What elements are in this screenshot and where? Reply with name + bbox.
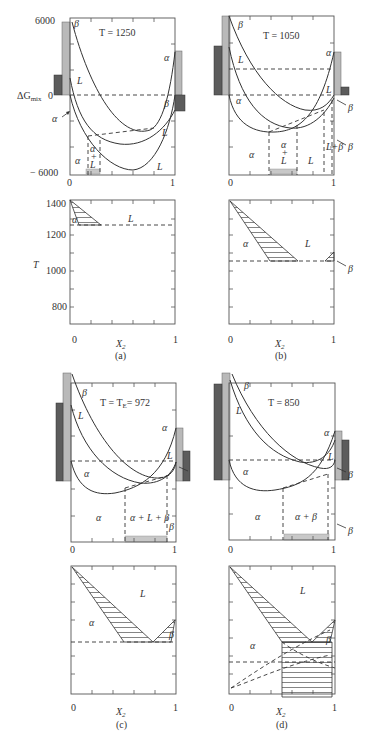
beta-label-right: β — [347, 469, 353, 480]
two-phase-shade — [284, 534, 329, 540]
alpha-region-label: α — [249, 149, 255, 160]
three-phase-label: α + L + β — [130, 512, 169, 523]
y-axis-label: T — [33, 259, 40, 270]
temperature-label: T = 850 — [268, 397, 300, 408]
phase-diagram-figure: T = 1250 β L α β L L α α α + L 6000 0 − … — [0, 0, 375, 747]
y-tick-800: 800 — [52, 301, 67, 312]
panel-c-free-energy: T = TE= 972 β L α α L α α + L + β β 0 1 — [56, 373, 190, 555]
alpha-bar-right — [335, 431, 342, 480]
temperature-label: T = 1250 — [99, 27, 136, 38]
liquid-curve — [229, 47, 334, 128]
beta-label: β — [237, 19, 243, 30]
alpha-l-two-phase-region — [230, 567, 312, 642]
x-axis-label: X2 — [115, 706, 126, 719]
beta-label-right-1: β — [347, 102, 353, 113]
beta-region-label: β — [168, 521, 174, 532]
alpha-label: α — [236, 95, 242, 106]
x-tick-0: 0 — [229, 702, 234, 713]
x-tick-0: 0 — [70, 544, 75, 555]
l-label: L — [235, 405, 242, 416]
x-tick-0: 0 — [228, 177, 233, 188]
alpha-curve — [229, 431, 335, 491]
alpha-label: α — [89, 617, 95, 628]
alpha-beta-label: α + β — [295, 511, 317, 522]
panel-d-free-energy: T = 850 β L α α L β α α + β β 0 1 — [214, 373, 353, 555]
y-tick-1400: 1400 — [46, 198, 66, 209]
arrowhead-icon — [66, 111, 70, 115]
caption: (c) — [116, 719, 127, 731]
x-axis-label: X2 — [275, 706, 286, 719]
alpha-bar-right — [334, 52, 341, 95]
panel-a-free-energy: T = 1250 β L α β L L α α α + L 6000 0 − … — [17, 15, 185, 188]
alpha-region-label: α — [255, 511, 261, 522]
l-label: L — [139, 588, 146, 599]
three-phase-shade — [125, 536, 167, 542]
x-tick-0: 0 — [71, 702, 76, 713]
beta-curve — [72, 374, 176, 478]
arrow-icon — [337, 100, 346, 105]
l-label: L — [77, 410, 84, 421]
beta-curve — [72, 22, 175, 131]
beta-label-far-right: β — [347, 525, 353, 536]
beta-label: β — [243, 380, 249, 391]
beta-label-right-2: β — [347, 141, 353, 152]
alpha-label-right: α — [162, 422, 168, 433]
panel-b-phase-diagram: α L β 0 1 X2 (b) — [228, 200, 353, 362]
alpha-label: α — [243, 466, 249, 477]
x-tick-0: 0 — [228, 334, 233, 345]
l-label-bottom: L — [156, 161, 163, 172]
alpha-label: α — [72, 214, 78, 225]
x-tick-0: 0 — [72, 334, 77, 345]
alpha-curve — [70, 95, 175, 170]
y-tick-6000: 6000 — [35, 15, 55, 26]
l-bar-right — [183, 451, 190, 481]
x-tick-0: 0 — [228, 544, 233, 555]
alpha-region-label: α — [75, 155, 81, 166]
alpha-bar-right — [175, 51, 182, 95]
y-tick-1200: 1200 — [46, 229, 66, 240]
ticks — [70, 18, 175, 175]
x-tick-1: 1 — [173, 334, 178, 345]
l-label: L — [76, 75, 83, 86]
caption: (d) — [276, 719, 288, 731]
panel-d-phase-diagram: L α β 0 1 X2 (d) — [229, 566, 337, 731]
x-tick-1: 1 — [332, 702, 337, 713]
alpha-label: α — [250, 640, 256, 651]
alpha-label: α — [243, 238, 249, 249]
l-region-label: L — [307, 155, 314, 166]
alpha-label: α — [52, 113, 58, 124]
x-tick-1: 1 — [331, 177, 336, 188]
y-tick-1000: 1000 — [46, 265, 66, 276]
beta-label: β — [325, 634, 331, 645]
l-bar-left — [214, 46, 222, 95]
x-tick-1: 1 — [173, 702, 178, 713]
alpha-beta-two-phase-region — [282, 642, 332, 697]
alpha-region-label: α — [96, 512, 102, 523]
l-bar-right — [341, 87, 349, 95]
beta-label: β — [347, 263, 353, 274]
l-label: L — [304, 238, 311, 249]
l-bar-left — [54, 75, 62, 95]
common-tangent — [283, 474, 328, 488]
panel-a-phase-diagram: α L 1400 1200 1000 800 T 0 1 X2 (a) — [33, 198, 178, 362]
beta-label: β — [73, 18, 79, 29]
panel-b-free-energy: T = 1050 β L α α L β β α α + L L L+β 0 1 — [214, 16, 353, 188]
common-tangent — [88, 128, 154, 136]
alpha-curve — [229, 52, 334, 132]
x-tick-1: 1 — [331, 334, 336, 345]
l-bar-left — [56, 403, 63, 481]
alpha-label-right: α — [324, 427, 330, 438]
arrow-icon — [337, 524, 346, 528]
x-tick-1: 1 — [170, 177, 175, 188]
l-beta-two-phase-region — [312, 620, 335, 642]
y-axis-label: ΔGmix — [17, 90, 42, 103]
two-phase-shade — [270, 169, 297, 174]
caption: (a) — [115, 350, 126, 362]
liquid-curve — [230, 380, 335, 463]
l-label-right: L — [327, 451, 334, 462]
plot-frame — [70, 18, 175, 175]
l-sublabel: L — [280, 155, 287, 166]
beta-bar-left — [63, 373, 71, 481]
l-plus-beta-label: L+β — [325, 141, 343, 152]
l-label: L — [127, 213, 134, 224]
